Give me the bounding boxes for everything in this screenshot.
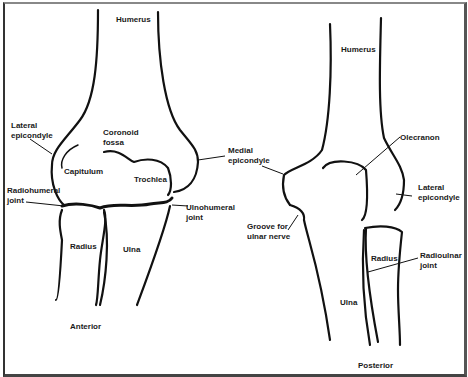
posterior-humerus-outline bbox=[283, 24, 331, 205]
posterior-radius-outline bbox=[365, 226, 402, 345]
label-posterior-ulna: Ulna bbox=[340, 298, 357, 308]
caption-posterior: Posterior bbox=[358, 361, 393, 371]
label-posterior-humerus: Humerus bbox=[341, 45, 376, 55]
label-groove-for-ulnar-nerve: Groove for ulnar nerve bbox=[247, 222, 290, 242]
label-anterior-lateral-epicondyle: Lateral epicondyle bbox=[11, 121, 53, 141]
label-posterior-radius: Radius bbox=[371, 254, 398, 264]
label-medial-epicondyle: Medial epicondyle bbox=[228, 146, 270, 166]
label-radiohumeral-joint: Radiohumeral joint bbox=[7, 186, 60, 206]
label-ulnohumeral-joint: Ulnohumeral joint bbox=[186, 203, 235, 223]
label-radioulnar-joint: Radioulnar joint bbox=[420, 251, 462, 271]
label-posterior-lateral-epicondyle: Lateral epicondyle bbox=[418, 183, 460, 203]
label-anterior-radius: Radius bbox=[70, 242, 97, 252]
elbow-anatomy-illustration bbox=[0, 0, 468, 377]
label-olecranon: Olecranon bbox=[400, 133, 440, 143]
label-capitulum: Capitulum bbox=[64, 167, 103, 177]
label-anterior-humerus: Humerus bbox=[116, 15, 151, 25]
label-trochlea: Trochlea bbox=[134, 175, 167, 185]
label-anterior-ulna: Ulna bbox=[123, 245, 140, 255]
caption-anterior: Anterior bbox=[70, 322, 101, 332]
anterior-radius-outline bbox=[56, 210, 62, 300]
label-coronoid-fossa: Coronoid fossa bbox=[103, 128, 139, 148]
